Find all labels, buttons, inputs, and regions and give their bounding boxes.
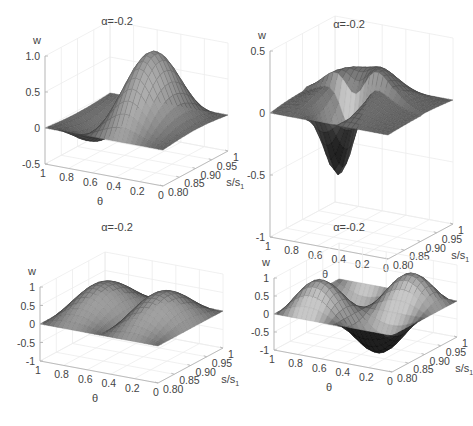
z-gridline xyxy=(274,243,457,278)
z-tick-label: -0.5 xyxy=(247,169,265,181)
x-tick-label: 0.6 xyxy=(78,373,93,385)
z-tick-label: 1 xyxy=(263,272,269,284)
surface-plot-top-right: -1-0.500.5w10.80.60.40.20θ0.800.850.900.… xyxy=(237,0,473,213)
y-tick-label: 1 xyxy=(228,348,234,360)
x-tick-label: 0.4 xyxy=(106,180,121,192)
surface xyxy=(45,51,228,150)
x-tick-label: 0.8 xyxy=(288,357,303,369)
surface-plot-svg: -1-0.500.5w10.80.60.40.20θ0.800.850.900.… xyxy=(237,0,473,213)
z-gridline xyxy=(45,21,228,56)
z-axis-label: w xyxy=(261,256,270,268)
z-axis-label: w xyxy=(257,29,266,41)
z-tick-label: -0.5 xyxy=(22,158,40,170)
x-tick-label: 0 xyxy=(153,386,159,398)
surface-plot-svg: -0.500.51.0w10.80.60.40.20θ0.800.850.900… xyxy=(0,0,236,213)
x-tick-label: 1 xyxy=(40,167,46,179)
x-axis-label: θ xyxy=(97,195,103,207)
z-tick-label: 0.5 xyxy=(250,45,265,57)
z-gridline xyxy=(270,140,453,175)
x-axis-label: θ xyxy=(326,381,332,393)
z-tick-label: -1 xyxy=(260,344,269,356)
surface-plot-svg: -1-0.500.51w10.80.60.40.20θ0.800.850.900… xyxy=(0,213,236,426)
x-tick-label: 0.2 xyxy=(130,185,145,197)
z-tick-label: 0.5 xyxy=(20,300,35,312)
plot-title: α=-0.2 xyxy=(333,18,365,30)
surface-plot-top-left: -0.500.51.0w10.80.60.40.20θ0.800.850.900… xyxy=(0,0,236,213)
surface-plot-bottom-left: -1-0.500.51w10.80.60.40.20θ0.800.850.900… xyxy=(0,213,236,426)
z-tick-label: 0 xyxy=(34,122,40,134)
x-tick-label: 1 xyxy=(35,364,41,376)
x-tick-label: 0.2 xyxy=(125,382,140,394)
z-axis-label: w xyxy=(27,265,36,277)
z-tick-label: -1 xyxy=(26,355,35,367)
surface-plot-bottom-right: -1-0.500.51w10.80.60.40.20θ0.800.850.900… xyxy=(237,213,473,426)
z-tick-label: 0 xyxy=(29,318,35,330)
x-tick-label: 0.6 xyxy=(83,176,98,188)
plot-title: α=-0.2 xyxy=(101,221,133,233)
x-tick-label: 0.8 xyxy=(54,368,69,380)
z-tick-label: 0 xyxy=(259,107,265,119)
x-tick-label: 0 xyxy=(387,375,393,387)
z-tick-label: -0.5 xyxy=(251,326,269,338)
z-gridline xyxy=(40,252,223,287)
x-tick-label: 0.8 xyxy=(59,171,74,183)
x-tick-label: 1 xyxy=(269,353,275,365)
y-axis-label-subscript: 1 xyxy=(469,369,473,376)
x-tick-label: 0 xyxy=(158,189,164,201)
y-tick-label: 1 xyxy=(462,337,468,349)
z-tick-label: 0 xyxy=(263,308,269,320)
z-tick-label: 1.0 xyxy=(25,50,40,62)
z-tick-label: 0.5 xyxy=(25,86,40,98)
y-axis-label: s/s1 xyxy=(455,362,473,376)
plot-title: α=-0.2 xyxy=(333,221,365,233)
z-tick-label: -0.5 xyxy=(17,337,35,349)
z-tick-label: 0.5 xyxy=(254,290,269,302)
x-tick-label: 0.4 xyxy=(101,377,116,389)
plot-title: α=-0.2 xyxy=(101,15,133,27)
surface-plot-svg: -1-0.500.51w10.80.60.40.20θ0.800.850.900… xyxy=(237,213,473,426)
z-axis-label: w xyxy=(32,34,41,46)
x-tick-label: 0.4 xyxy=(335,366,350,378)
surface xyxy=(270,67,453,175)
x-tick-label: 0.2 xyxy=(359,371,374,383)
z-tick-label: 1 xyxy=(29,281,35,293)
surface xyxy=(274,273,457,353)
x-tick-label: 0.6 xyxy=(312,362,327,374)
x-axis-label: θ xyxy=(92,392,98,404)
